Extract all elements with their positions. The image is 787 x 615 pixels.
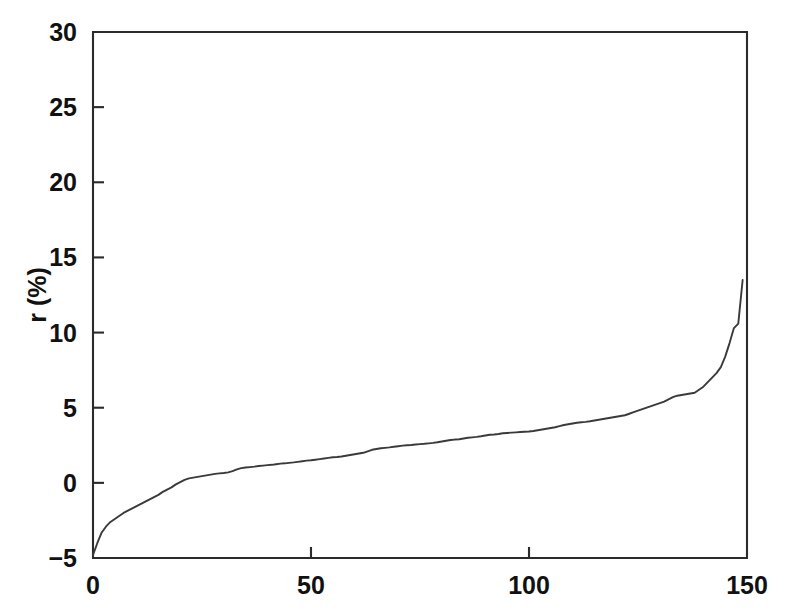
- line-chart: −5051015202530 050100150 r (%): [0, 0, 787, 615]
- plot-axis-frame: [93, 32, 747, 558]
- x-tick-label: 0: [86, 571, 100, 599]
- x-axis-ticks: [311, 547, 529, 558]
- y-tick-label: 5: [63, 394, 77, 422]
- x-tick-label: 150: [726, 571, 768, 599]
- x-tick-label: 50: [297, 571, 325, 599]
- y-axis-tick-labels: −5051015202530: [48, 18, 77, 572]
- y-tick-label: 10: [49, 319, 77, 347]
- y-tick-label: 20: [49, 168, 77, 196]
- y-tick-label: 0: [63, 469, 77, 497]
- x-axis-tick-labels: 050100150: [86, 571, 768, 599]
- y-tick-label: 15: [49, 243, 77, 271]
- chart-figure: −5051015202530 050100150 r (%): [0, 0, 787, 615]
- x-tick-label: 100: [508, 571, 550, 599]
- y-tick-label: 30: [49, 18, 77, 46]
- y-axis-ticks: [93, 107, 104, 483]
- y-tick-label: −5: [48, 544, 77, 572]
- data-series-line: [93, 280, 743, 555]
- y-tick-label: 25: [49, 93, 77, 121]
- y-axis-title: r (%): [23, 267, 51, 323]
